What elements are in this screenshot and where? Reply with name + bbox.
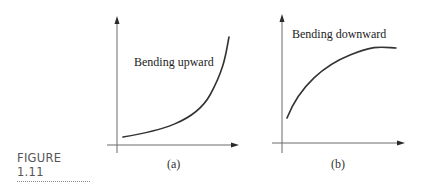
- x-axis-arrow-icon: [231, 143, 239, 148]
- annotation-bending-upward: Bending upward: [134, 55, 214, 69]
- y-axis-arrow-icon: [280, 14, 285, 22]
- sublabel-b: (b): [331, 157, 345, 171]
- x-axis-arrow-icon: [397, 141, 405, 146]
- sublabel-a: (a): [167, 157, 180, 171]
- panel-b: Bending downward (b): [272, 14, 405, 171]
- curve-bending-upward: [123, 37, 229, 137]
- y-axis-arrow-icon: [115, 16, 120, 24]
- curve-bending-downward: [287, 47, 396, 118]
- figure-diagram: Bending upward (a) Bending downward (b): [0, 0, 425, 185]
- annotation-bending-downward: Bending downward: [292, 27, 386, 41]
- panel-a: Bending upward (a): [107, 16, 239, 171]
